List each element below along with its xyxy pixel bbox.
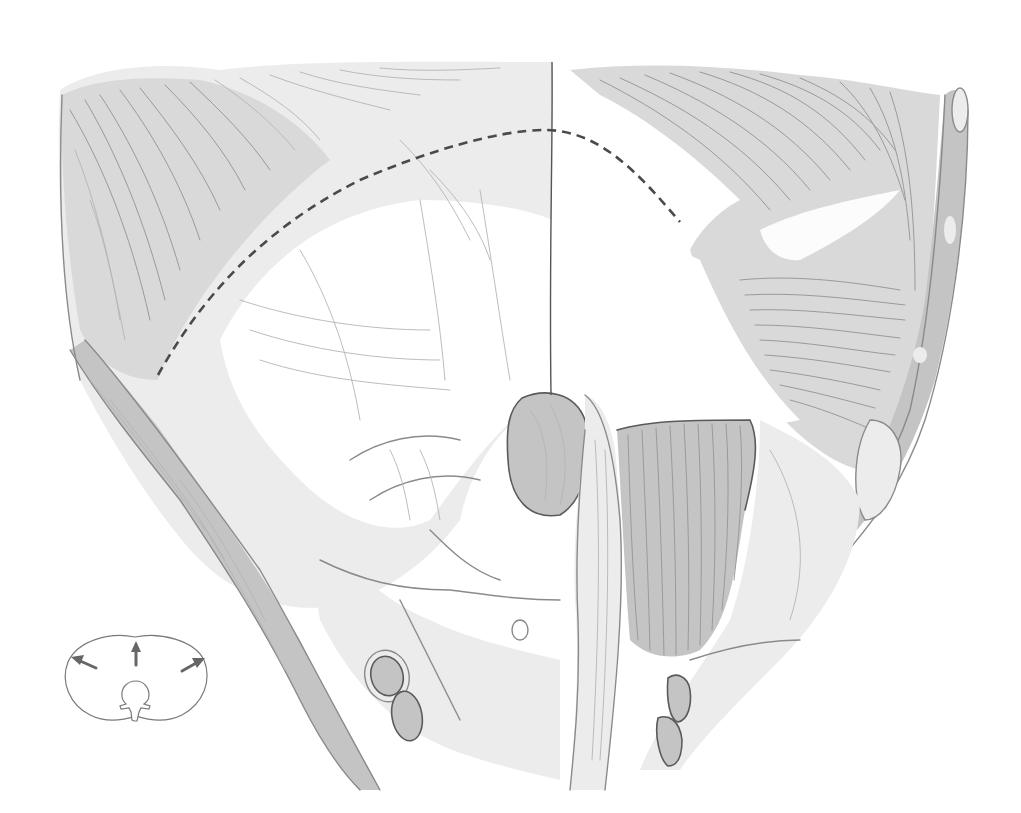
esophageal-hiatus <box>507 393 588 516</box>
orientation-inset <box>65 636 207 721</box>
anatomical-illustration <box>0 0 1021 813</box>
illustration-canvas <box>0 0 1021 813</box>
